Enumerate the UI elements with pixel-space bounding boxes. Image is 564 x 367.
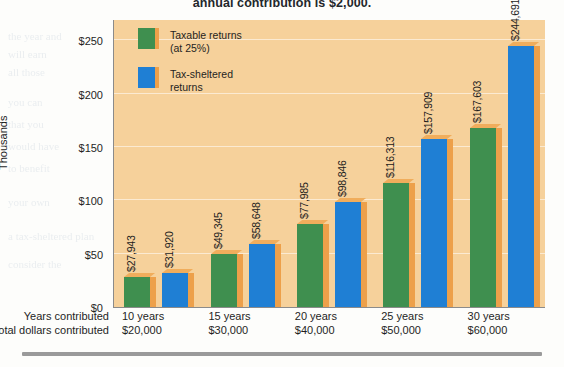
y-axis: $0$50$100$150$200$250Thousands <box>0 20 110 308</box>
bar-taxable: $167,603 <box>470 128 496 307</box>
bar-group: $27,943$31,920 <box>114 20 200 307</box>
bar-tax-sheltered: $157,909 <box>421 139 447 307</box>
bar-value-label: $167,603 <box>471 81 483 123</box>
bar-groups: $27,943$31,920$49,345$58,648$77,985$98,8… <box>114 20 545 307</box>
x-axis-cell: $30,000 <box>208 324 248 336</box>
bar-value-label: $98,846 <box>336 160 348 197</box>
y-axis-tick: $100 <box>79 195 103 207</box>
bar-tax-sheltered: $58,648 <box>249 244 275 307</box>
x-axis-cell: $40,000 <box>295 324 335 336</box>
bar-group: $49,345$58,648 <box>200 20 286 307</box>
chart-plot-area: Taxable returns(at 25%)Tax-shelteredretu… <box>113 20 545 308</box>
y-axis-tick: $150 <box>79 142 103 154</box>
x-axis-cell: 15 years <box>208 310 250 322</box>
y-axis-tick: $50 <box>85 249 103 261</box>
bar-tax-sheltered: $244,691 <box>508 46 534 307</box>
x-axis-cell: 25 years <box>381 310 423 322</box>
bar-value-label: $77,985 <box>298 182 310 219</box>
bar-tax-sheltered: $98,846 <box>335 202 361 307</box>
bar-tax-sheltered: $31,920 <box>162 273 188 307</box>
x-axis: Years contributed10 years15 years20 year… <box>0 310 564 350</box>
y-axis-tick: $250 <box>79 35 103 47</box>
bar-value-label: $116,313 <box>384 137 396 178</box>
y-axis-title: Thousands <box>0 116 9 170</box>
bar-taxable: $116,313 <box>383 183 409 307</box>
bar-group: $77,985$98,846 <box>287 20 373 307</box>
bar-value-label: $244,691 <box>509 0 521 41</box>
x-axis-row-title: Total dollars contributed <box>0 324 109 336</box>
x-axis-cell: $20,000 <box>122 324 162 336</box>
x-axis-cell: 10 years <box>122 310 164 322</box>
x-axis-cell: 30 years <box>468 310 510 322</box>
bar-group: $116,313$157,909 <box>373 20 459 307</box>
bar-value-label: $27,943 <box>125 236 137 273</box>
y-axis-tick: $200 <box>79 89 103 101</box>
bar-value-label: $31,920 <box>163 231 175 268</box>
x-axis-cell: $60,000 <box>468 324 508 336</box>
x-axis-row-title: Years contributed <box>24 310 109 322</box>
bar-taxable: $49,345 <box>211 254 237 307</box>
bar-taxable: $27,943 <box>124 277 150 307</box>
page-top-text: annual contribution is $2,000. <box>0 0 564 10</box>
bottom-divider <box>22 352 542 356</box>
bar-value-label: $49,345 <box>212 213 224 250</box>
bar-group: $167,603$244,691 <box>460 20 546 307</box>
bar-taxable: $77,985 <box>297 224 323 307</box>
bar-value-label: $58,648 <box>250 203 262 240</box>
x-axis-cell: 20 years <box>295 310 337 322</box>
x-axis-cell: $50,000 <box>381 324 421 336</box>
bar-value-label: $157,909 <box>422 91 434 133</box>
